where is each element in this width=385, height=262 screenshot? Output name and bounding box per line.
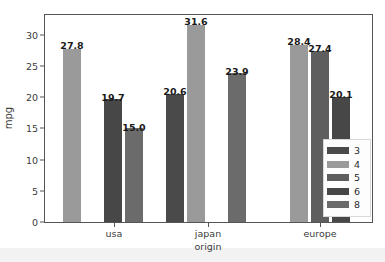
bar [187, 25, 205, 222]
legend-item[interactable]: 8 [327, 198, 367, 212]
chart-legend[interactable]: 34568 [323, 139, 371, 217]
bar-value-label: 27.4 [308, 43, 331, 54]
bar-value-label: 20.6 [163, 86, 186, 97]
y-axis-tick-label: 10 [0, 154, 38, 165]
x-axis-tick-label: europe [303, 228, 336, 239]
bar-value-label: 19.7 [101, 92, 124, 103]
legend-label: 6 [354, 187, 360, 197]
legend-swatch [327, 161, 349, 168]
x-axis-tick-mark [208, 223, 209, 227]
legend-label: 4 [354, 160, 360, 170]
legend-label: 5 [354, 173, 360, 183]
y-axis-tick-label: 30 [0, 29, 38, 40]
legend-item[interactable]: 3 [327, 144, 367, 158]
y-axis-tick-label: 25 [0, 61, 38, 72]
x-axis-tick-label: japan [195, 228, 221, 239]
legend-label: 8 [354, 200, 360, 210]
legend-item[interactable]: 5 [327, 171, 367, 185]
figure-bottom-strip [0, 248, 385, 262]
legend-swatch [327, 147, 349, 154]
legend-item[interactable]: 6 [327, 185, 367, 199]
bar-value-label: 31.6 [184, 16, 207, 27]
bar-value-label: 28.4 [287, 36, 310, 47]
legend-swatch [327, 201, 349, 208]
x-axis-tick-mark [320, 223, 321, 227]
bar [63, 49, 81, 222]
bar-value-label: 15.0 [122, 122, 145, 133]
bar [290, 45, 308, 222]
bar-value-label: 27.8 [60, 40, 83, 51]
legend-label: 3 [354, 146, 360, 156]
x-axis-tick-mark [114, 223, 115, 227]
figure-canvas: 051015202530 mpg usajapaneurope origin 3… [0, 0, 385, 262]
y-axis-title: mpg [3, 98, 14, 138]
legend-swatch [327, 174, 349, 181]
y-axis-tick-label: 0 [0, 217, 38, 228]
x-axis-title: origin [194, 241, 221, 252]
bar [125, 128, 143, 222]
bar-value-label: 23.9 [225, 66, 248, 77]
y-axis-tick-label: 5 [0, 185, 38, 196]
bar [228, 73, 246, 222]
bar [166, 94, 184, 222]
legend-swatch [327, 188, 349, 195]
bar [104, 99, 122, 222]
legend-item[interactable]: 4 [327, 158, 367, 172]
x-axis-tick-label: usa [106, 228, 123, 239]
bar-value-label: 20.1 [329, 89, 352, 100]
